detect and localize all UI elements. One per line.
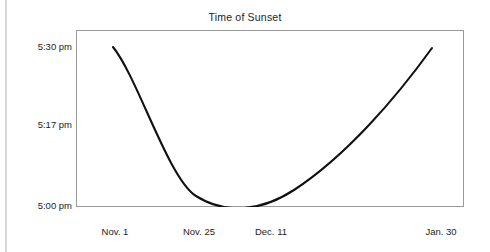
x-tick-label-1: Nov. 25 <box>183 226 215 237</box>
x-tick-label-0: Nov. 1 <box>102 226 129 237</box>
x-tick-label-2: Dec. 11 <box>255 226 287 237</box>
x-axis: Nov. 1 Nov. 25 Dec. 11 Jan. 30 <box>0 0 490 252</box>
sunset-chart-screenshot: Time of Sunset 5:30 pm 5:17 pm 5:00 pm N… <box>0 0 490 252</box>
x-tick-label-3: Jan. 30 <box>425 226 456 237</box>
